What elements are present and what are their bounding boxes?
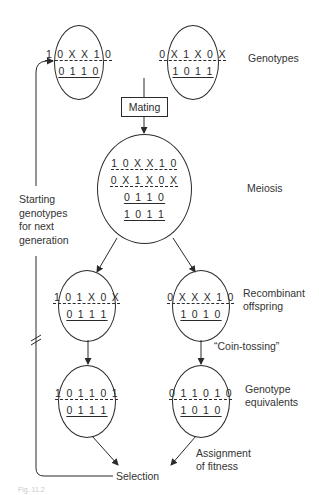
right-to-selection-arrow xyxy=(171,436,196,465)
chromosome-string: 0 X 1 X 0 X xyxy=(159,46,226,63)
meiosis-label: Meiosis xyxy=(247,182,283,195)
meiosis-chromosome-2: 0 X 1 X 0 X xyxy=(111,172,178,189)
equivalent-left: 1 0 1 1 0 1 0 1 1 1 xyxy=(58,365,116,438)
meiosis-chromosome-1: 1 0 X X 1 0 xyxy=(111,155,177,172)
coin-tossing-label: “Coin-tossing” xyxy=(214,340,279,353)
genotype-equivalents-label: Genotype equivalents xyxy=(245,383,298,408)
phenotype-string: 0 1 1 1 xyxy=(66,306,107,323)
chromosome-string: 0 X X X 1 0 xyxy=(167,289,234,306)
assignment-of-fitness-label: Assignment of fitness xyxy=(196,447,251,472)
meiosis-phenotype-2: 1 0 1 1 xyxy=(124,206,165,223)
phenotype-string: 1 0 1 0 xyxy=(180,306,221,323)
genotypes-label: Genotypes xyxy=(248,52,299,65)
recombinant-offspring-label: Recombinant offspring xyxy=(243,287,305,312)
chromosome-string: 0 1 1 0 1 0 xyxy=(169,385,233,402)
meiosis-phenotype-1: 0 1 1 0 xyxy=(124,189,165,206)
parent-genotype-left: 1 0 X X 1 0 0 1 1 0 xyxy=(54,25,104,100)
feedback-label: Starting genotypes for next generation xyxy=(19,193,69,247)
feedback-loop-return-arrow xyxy=(36,61,53,186)
selection-label: Selection xyxy=(116,470,159,483)
phenotype-string: 0 1 1 1 xyxy=(66,402,107,419)
equivalent-right: 0 1 1 0 1 0 1 0 1 0 xyxy=(172,365,230,438)
chromosome-string: 1 0 1 X 0 X xyxy=(54,289,120,306)
chromosome-string: 1 0 1 1 0 1 xyxy=(55,385,119,402)
meiosis-to-right-offspring-arrow xyxy=(173,238,195,272)
chromosome-string: 1 0 X X 1 0 xyxy=(46,46,112,63)
connector-lines xyxy=(0,0,319,495)
parent-genotype-right: 0 X 1 X 0 X 1 0 1 1 xyxy=(167,25,219,100)
left-to-selection-arrow xyxy=(92,436,118,465)
figure-caption: Fig. 11.2 xyxy=(18,486,45,493)
meiosis-to-left-offspring-arrow xyxy=(97,238,117,272)
mating-box: Mating xyxy=(121,97,168,117)
offspring-left: 1 0 1 X 0 X 0 1 1 1 xyxy=(58,270,116,342)
meiosis-circle: 1 0 X X 1 0 0 X 1 X 0 X 0 1 1 0 1 0 1 1 xyxy=(97,134,192,244)
phenotype-string: 1 0 1 1 xyxy=(172,63,213,80)
offspring-right: 0 X X X 1 0 1 0 1 0 xyxy=(172,270,230,342)
mating-label: Mating xyxy=(129,101,161,113)
phenotype-string: 1 0 1 0 xyxy=(180,402,221,419)
phenotype-string: 0 1 1 0 xyxy=(58,63,99,80)
